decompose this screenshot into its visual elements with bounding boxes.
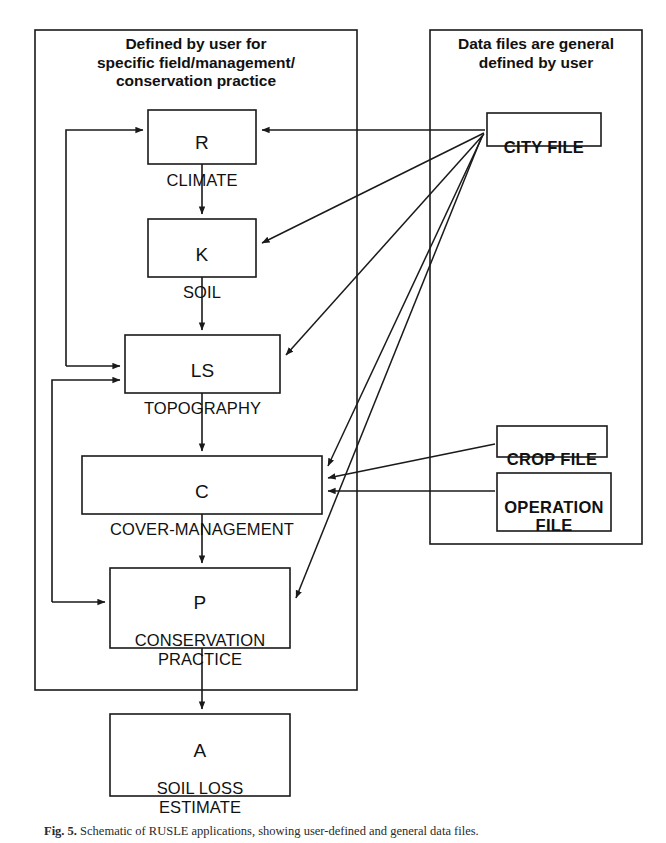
edge-cropfile-to-cover	[328, 444, 495, 478]
diagram-canvas	[0, 0, 666, 843]
figure-caption: Fig. 5. Schematic of RUSLE applications,…	[44, 824, 659, 843]
file-box-crop	[497, 426, 607, 457]
node-box-soil	[148, 219, 256, 277]
edge-cityfile-to-topography	[286, 134, 484, 355]
edge-cityfile-to-soil	[262, 133, 484, 243]
file-box-operation	[497, 473, 611, 531]
figure-caption-text: Schematic of RUSLE applications, showing…	[80, 824, 479, 838]
node-box-topography	[125, 335, 280, 393]
edge-cityfile-to-cover	[328, 135, 483, 466]
group-title-data-files: Data files are general defined by user	[436, 35, 636, 72]
node-box-cover	[82, 456, 322, 514]
figure-caption-number: Fig. 5.	[44, 824, 77, 838]
group-box-user-defined	[35, 30, 357, 690]
edge-feedback-into-climate	[66, 130, 143, 366]
rusle-figure: Defined by user for specific field/manag…	[0, 0, 666, 843]
node-box-practice	[110, 568, 290, 648]
group-title-user-defined: Defined by user for specific field/manag…	[45, 35, 347, 91]
group-box-data-files	[430, 30, 642, 544]
node-box-soilloss	[110, 714, 290, 796]
node-box-climate	[148, 110, 256, 164]
edge-cityfile-to-practice	[296, 136, 482, 598]
file-box-city	[487, 113, 601, 146]
